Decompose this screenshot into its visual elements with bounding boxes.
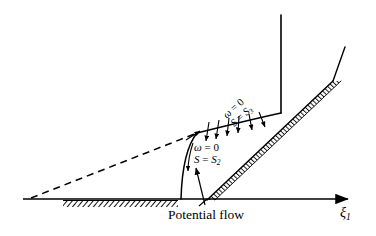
condition-label-lower: ω = 0 S = S2	[194, 142, 220, 166]
potential-flow-leader-tick	[199, 199, 207, 206]
axis-label-xi1: ξ1	[340, 206, 351, 222]
vorticity-value-lower: 0	[214, 141, 220, 153]
entropy-subscript-lower: 2	[217, 158, 221, 167]
ramp-wall-hatched	[207, 81, 341, 200]
potential-flow-label: Potential flow	[168, 208, 244, 222]
figure-container: ω = 0 S = S2 ω = 0 S = S3 Potential flow…	[0, 0, 376, 236]
ramp-line-extension	[333, 47, 345, 81]
vorticity-equals-lower: =	[202, 141, 214, 153]
vorticity-symbol-lower: ω	[194, 141, 202, 153]
ground-wall-hatched	[63, 200, 178, 207]
flow-diagram-svg	[0, 0, 376, 236]
entropy-condition-lower-row: S = S2	[194, 154, 220, 167]
entropy-equals-lower: =	[200, 153, 212, 165]
axis-label-subscript: 1	[346, 212, 351, 222]
dashed-mach-line	[31, 133, 197, 198]
